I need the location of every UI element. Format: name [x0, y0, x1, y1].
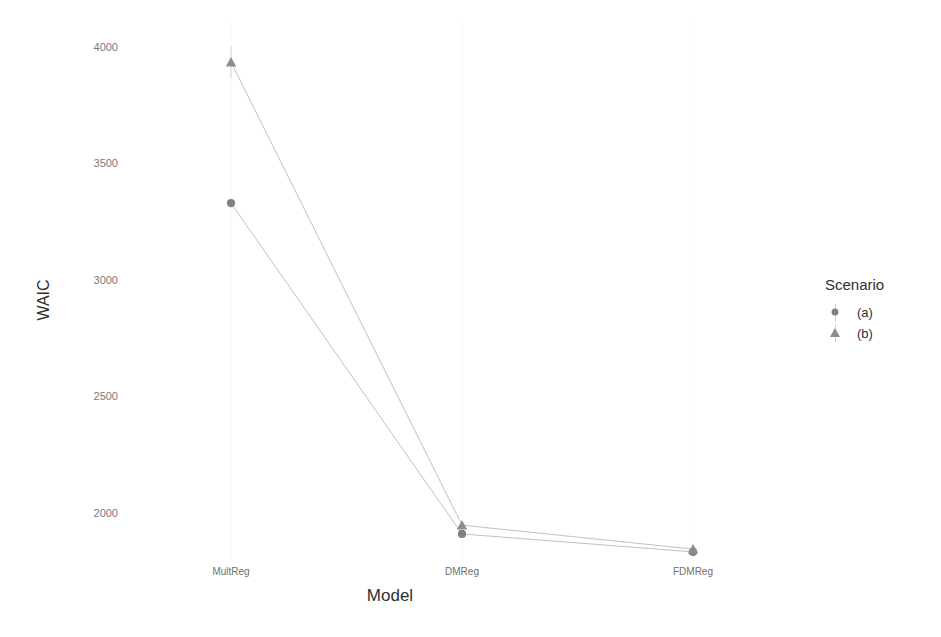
legend-title: Scenario [825, 276, 935, 293]
waic-model-line-chart: 4000 3500 3000 2500 2000 WAIC MultReg DM… [0, 0, 941, 637]
legend: Scenario (a) (b) [825, 276, 935, 345]
data-point-triangle [457, 520, 467, 529]
legend-label-a: (a) [857, 305, 873, 320]
series-line-b [231, 62, 693, 549]
series-line-a [231, 203, 693, 552]
data-point-circle [458, 530, 466, 538]
legend-item-b[interactable]: (b) [825, 324, 935, 343]
triangle-marker-icon [825, 324, 847, 343]
plot-area [0, 0, 941, 637]
data-point-triangle [226, 57, 236, 66]
legend-label-b: (b) [857, 326, 873, 341]
data-point-circle [227, 199, 235, 207]
circle-marker-icon [825, 303, 847, 322]
legend-item-a[interactable]: (a) [825, 303, 935, 322]
